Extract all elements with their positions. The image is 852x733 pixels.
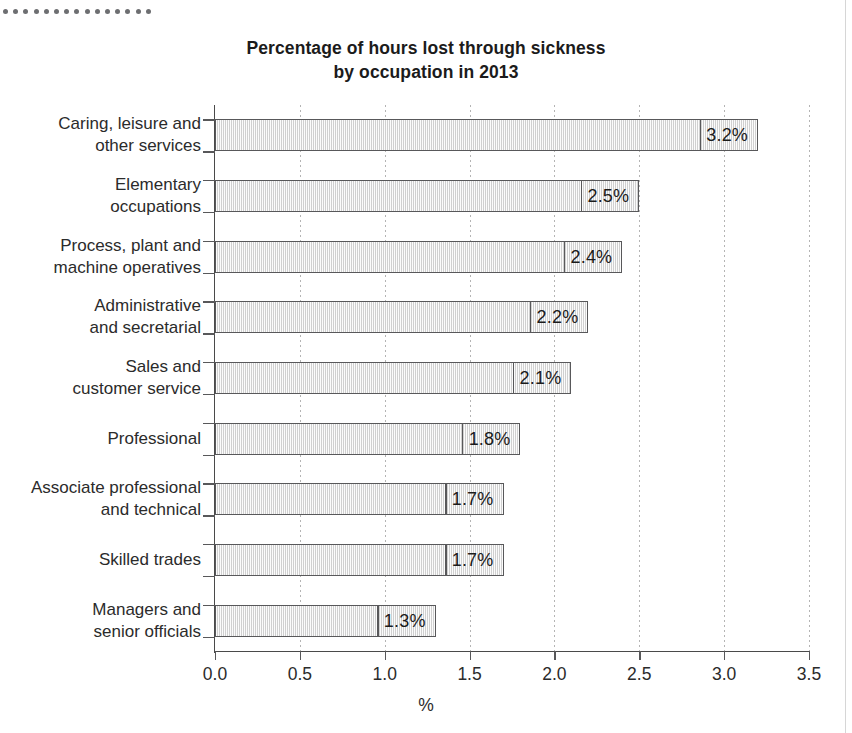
y-axis-tick <box>203 637 215 638</box>
decoration-dot <box>146 9 151 14</box>
decoration-dot <box>136 9 141 14</box>
chart-figure: Percentage of hours lost through sicknes… <box>0 0 852 733</box>
category-label-line: Sales and <box>0 356 201 378</box>
y-axis-tick <box>203 151 215 152</box>
category-label: Managers andsenior officials <box>0 599 201 643</box>
category-label: Sales andcustomer service <box>0 356 201 400</box>
category-label-line: Professional <box>0 428 201 450</box>
value-label-separator <box>581 181 582 211</box>
y-axis-tick <box>203 544 215 545</box>
decoration-dot <box>85 9 90 14</box>
bar-value-label: 1.7% <box>452 550 494 571</box>
x-axis-tick-label: 0.0 <box>185 664 245 685</box>
category-label: Caring, leisure andother services <box>0 113 201 157</box>
y-axis-tick <box>203 241 215 242</box>
x-axis-tick-label: 3.5 <box>779 664 839 685</box>
x-axis-tick-label: 1.5 <box>440 664 500 685</box>
category-label-line: other services <box>0 135 201 157</box>
bar: 2.5% <box>215 180 639 212</box>
y-axis-tick <box>203 301 215 302</box>
category-label: Professional <box>0 428 201 450</box>
bar-value-label: 1.7% <box>452 489 494 510</box>
bar-value-label: 1.8% <box>469 428 511 449</box>
decoration-dot <box>95 9 100 14</box>
bar: 2.1% <box>215 362 571 394</box>
decoration-dot <box>64 9 69 14</box>
bar: 2.4% <box>215 241 622 273</box>
category-label-line: Process, plant and <box>0 235 201 257</box>
y-axis-tick <box>203 605 215 606</box>
y-axis-tick <box>203 180 215 181</box>
x-axis-tick-label: 2.5 <box>609 664 669 685</box>
y-axis-tick <box>203 394 215 395</box>
y-axis-tick <box>203 119 215 120</box>
category-label-line: Elementary <box>0 174 201 196</box>
category-label-line: customer service <box>0 378 201 400</box>
value-label-separator <box>445 545 446 575</box>
y-axis-tick <box>203 333 215 334</box>
y-axis-tick <box>203 455 215 456</box>
x-axis-tick-label: 3.0 <box>694 664 754 685</box>
chart-title-line-1: Percentage of hours lost through sicknes… <box>0 36 852 60</box>
x-axis-line <box>214 651 810 652</box>
category-label-line: Skilled trades <box>0 549 201 571</box>
category-label: Associate professionaland technical <box>0 477 201 521</box>
bar: 1.8% <box>215 423 520 455</box>
y-axis-tick <box>203 273 215 274</box>
y-axis-tick <box>203 483 215 484</box>
bar-value-label: 2.2% <box>537 307 579 328</box>
x-axis-tick-label: 0.5 <box>270 664 330 685</box>
gridline <box>724 105 725 651</box>
value-label-separator <box>564 242 565 272</box>
x-axis-title: % <box>0 695 852 716</box>
bar: 2.2% <box>215 301 588 333</box>
category-label-line: and secretarial <box>0 317 201 339</box>
bar-value-label: 2.1% <box>520 368 562 389</box>
decoration-dot <box>13 9 18 14</box>
category-label-line: Associate professional <box>0 477 201 499</box>
y-axis-tick <box>203 362 215 363</box>
decoration-dot <box>74 9 79 14</box>
category-label-line: and technical <box>0 499 201 521</box>
value-label-separator <box>445 484 446 514</box>
gridline <box>809 105 810 651</box>
chart-title-line-2: by occupation in 2013 <box>0 60 852 84</box>
bar: 3.2% <box>215 119 758 151</box>
x-axis-tick <box>809 651 810 660</box>
bar: 1.3% <box>215 605 436 637</box>
y-axis-tick <box>203 423 215 424</box>
category-label-line: Managers and <box>0 599 201 621</box>
category-label-line: machine operatives <box>0 257 201 279</box>
x-axis-tick-label: 2.0 <box>524 664 584 685</box>
y-axis-tick <box>203 576 215 577</box>
value-label-separator <box>462 424 463 454</box>
y-axis-tick <box>203 515 215 516</box>
x-axis-tick <box>215 651 216 660</box>
category-label: Process, plant andmachine operatives <box>0 235 201 279</box>
value-label-separator <box>530 302 531 332</box>
decoration-dot <box>125 9 130 14</box>
dot-decoration <box>0 5 200 19</box>
category-label-line: senior officials <box>0 621 201 643</box>
category-label-line: Caring, leisure and <box>0 113 201 135</box>
category-label: Elementaryoccupations <box>0 174 201 218</box>
category-label: Skilled trades <box>0 549 201 571</box>
x-axis-tick <box>639 651 640 660</box>
gridline <box>639 105 640 651</box>
page-seam-line <box>845 0 846 733</box>
x-axis-tick <box>300 651 301 660</box>
value-label-separator <box>700 120 701 150</box>
bar-value-label: 2.5% <box>587 186 629 207</box>
decoration-dot <box>34 9 39 14</box>
x-axis-tick-label: 1.0 <box>355 664 415 685</box>
decoration-dot <box>23 9 28 14</box>
y-axis-tick <box>203 212 215 213</box>
bar-value-label: 2.4% <box>570 246 612 267</box>
value-label-separator <box>513 363 514 393</box>
decoration-dot <box>105 9 110 14</box>
value-label-separator <box>377 606 378 636</box>
bar: 1.7% <box>215 483 504 515</box>
bar-value-label: 1.3% <box>384 610 426 631</box>
x-axis-tick <box>724 651 725 660</box>
bar: 1.7% <box>215 544 504 576</box>
